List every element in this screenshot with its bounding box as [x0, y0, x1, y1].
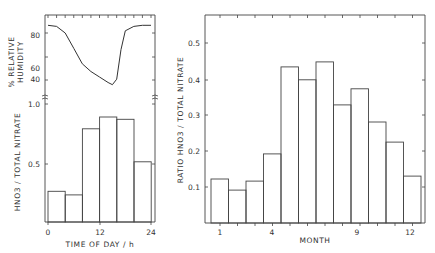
right-panel	[205, 15, 425, 223]
time-tick-24: 24	[146, 228, 156, 237]
time-bar	[82, 129, 99, 222]
rh-tick-60: 60	[30, 64, 40, 73]
month-bar	[369, 122, 387, 223]
month-bar	[316, 62, 334, 223]
month-tick-4: 4	[270, 228, 275, 237]
ratio-tick-0-5: 0.5	[28, 160, 40, 169]
time-bar	[48, 191, 65, 222]
month-ratio-tick-0-5: 0.5	[188, 39, 200, 48]
month-ratio-tick-0-1: 0.1	[188, 183, 200, 192]
month-bar	[351, 89, 369, 223]
time-bar	[117, 119, 134, 222]
left-y-label: HNO3 / TOTAL NITRATE	[13, 113, 22, 212]
month-bar	[299, 80, 317, 223]
ratio-tick-1-0: 1.0	[28, 100, 40, 109]
time-bar	[65, 195, 82, 222]
rh-tick-80: 80	[30, 31, 40, 40]
month-bar	[404, 176, 422, 223]
axis-break-icon	[42, 95, 158, 99]
rh-y-label-2: HUMIDITY	[16, 41, 25, 83]
month-bar	[264, 154, 282, 223]
time-tick-12: 12	[95, 228, 105, 237]
month-ratio-tick-0-2: 0.2	[188, 147, 200, 156]
month-bar	[246, 181, 264, 223]
left-bars	[48, 117, 151, 222]
month-ratio-tick-0-3: 0.3	[188, 111, 200, 120]
right-bars	[211, 62, 421, 223]
rh-y-label-1: % RELATIVE	[7, 36, 16, 87]
humidity-line	[48, 25, 151, 84]
month-bar	[229, 190, 247, 223]
rh-tick-40: 40	[30, 75, 40, 84]
month-ratio-tick-0-4: 0.4	[188, 76, 200, 85]
time-tick-0: 0	[46, 228, 51, 237]
right-y-label: RATIO HNO3 / TOTAL NITRATE	[176, 57, 185, 184]
time-bar	[100, 117, 117, 222]
month-bar	[334, 105, 352, 223]
month-bar	[211, 179, 229, 223]
month-bar	[281, 67, 299, 223]
figure: 80 60 40 1.0 0.5 0 12 24 TIME OF DAY / h…	[0, 0, 435, 253]
left-x-label: TIME OF DAY / h	[65, 240, 135, 249]
month-tick-1: 1	[218, 228, 223, 237]
month-bar	[386, 142, 404, 223]
month-tick-12: 12	[405, 228, 415, 237]
time-bar	[134, 162, 151, 222]
right-ticks	[205, 15, 425, 226]
right-x-label: MONTH	[299, 236, 330, 245]
month-tick-9: 9	[355, 228, 360, 237]
